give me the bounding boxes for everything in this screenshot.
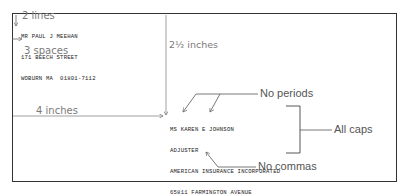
no-commas-callout: No commas — [258, 160, 317, 172]
return-address-line: MR PAUL J MEEHAN — [21, 33, 96, 40]
four-inches-label: 4 inches — [36, 105, 78, 116]
recipient-address-line: MS KAREN E JOHNSON — [170, 126, 280, 133]
no-periods-callout: No periods — [260, 87, 313, 99]
two-half-inches-label: 2½ inches — [169, 39, 218, 50]
all-caps-callout: All caps — [334, 123, 373, 135]
recipient-address-line: ADJUSTER — [170, 147, 280, 154]
return-address-line: WOBURN MA 01801-7112 — [21, 75, 96, 82]
recipient-address-line: 65811 FARMINGTON AVENUE — [170, 189, 280, 196]
three-spaces-label: 3 spaces — [24, 45, 68, 56]
recipient-address: MS KAREN E JOHNSON ADJUSTER AMERICAN INS… — [170, 112, 280, 196]
two-lines-label: 2 lines — [22, 10, 55, 21]
